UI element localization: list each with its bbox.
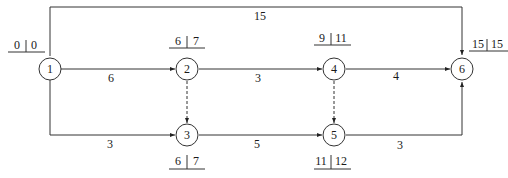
node-2-latest: 7 xyxy=(193,35,199,47)
duration-4-6: 4 xyxy=(393,70,399,82)
node-5-label: 5 xyxy=(331,129,337,141)
duration-1-3: 3 xyxy=(107,138,113,150)
edge-5-6 xyxy=(346,82,462,135)
node-3-label: 3 xyxy=(184,129,190,141)
network-diagram xyxy=(0,0,508,178)
node-5-latest: 12 xyxy=(335,155,347,167)
node-5-earliest: 11 xyxy=(315,155,327,167)
node-1-label: 1 xyxy=(47,63,53,75)
node-1-earliest: 0 xyxy=(14,39,20,51)
node-4-latest: 11 xyxy=(335,32,347,44)
edge-1-3 xyxy=(50,80,175,135)
node-6-label: 6 xyxy=(459,63,465,75)
node-3-earliest: 6 xyxy=(175,155,181,167)
duration-2-4: 3 xyxy=(255,72,261,84)
duration-3-5: 5 xyxy=(254,138,260,150)
node-1-latest: 0 xyxy=(31,39,37,51)
node-6-latest: 15 xyxy=(491,38,503,50)
node-3-latest: 7 xyxy=(193,155,199,167)
duration-5-6: 3 xyxy=(397,139,403,151)
duration-1-6: 15 xyxy=(254,10,266,22)
node-4-label: 4 xyxy=(331,63,337,75)
node-6-earliest: 15 xyxy=(472,38,484,50)
duration-1-2: 6 xyxy=(108,72,114,84)
node-2-earliest: 6 xyxy=(175,35,181,47)
node-2-label: 2 xyxy=(184,63,190,75)
node-4-earliest: 9 xyxy=(319,32,325,44)
